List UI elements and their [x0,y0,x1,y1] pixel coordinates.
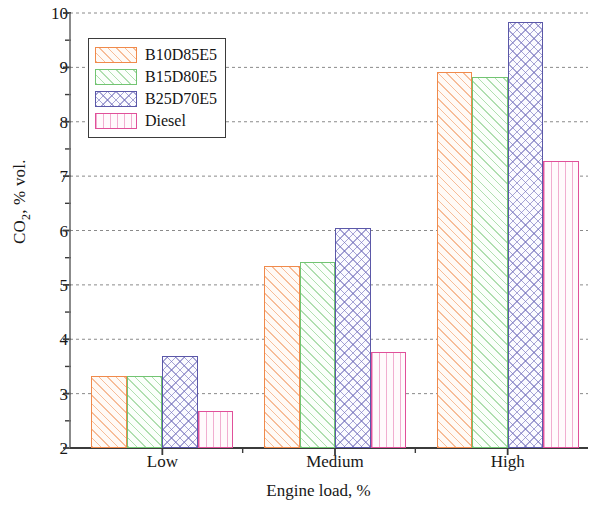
legend-swatch-b25d70e5 [95,91,137,107]
co2-bar-chart: CO2, % vol. Engine load, % 2345678910 Lo… [0,0,595,510]
legend-swatch-diesel [95,113,137,129]
x-tick-label-medium: Medium [306,452,364,472]
legend-label: B15D80E5 [145,69,217,85]
legend-item-b15d80e5[interactable]: B15D80E5 [95,66,217,88]
legend-swatch-b10d85e5 [95,47,137,63]
legend-swatch-b15d80e5 [95,69,137,85]
x-tick-label-high: High [491,452,525,472]
legend-item-b10d85e5[interactable]: B10D85E5 [95,44,217,66]
legend-item-diesel[interactable]: Diesel [95,110,217,132]
legend-label: B10D85E5 [145,47,217,63]
legend-label: B25D70E5 [145,91,217,107]
x-tick-label-low: Low [147,452,178,472]
legend-label: Diesel [145,113,186,129]
legend-item-b25d70e5[interactable]: B25D70E5 [95,88,217,110]
chart-legend: B10D85E5B15D80E5B25D70E5Diesel [88,38,226,138]
